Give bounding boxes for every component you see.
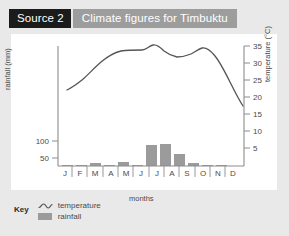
key-item-temperature: temperature [38, 200, 101, 211]
svg-text:O: O [200, 169, 206, 178]
y-axis-label-temperature: temperature (°C) [263, 26, 272, 82]
svg-text:10: 10 [253, 127, 262, 136]
svg-text:M: M [92, 169, 99, 178]
key-item-rainfall: rainfall [38, 211, 101, 222]
svg-text:5: 5 [253, 144, 258, 153]
svg-text:J: J [155, 169, 159, 178]
svg-text:J: J [63, 169, 67, 178]
svg-text:A: A [108, 169, 114, 178]
key-label: Key [14, 200, 29, 215]
card-header: Source 2 Climate figures for Timbuktu [9, 9, 237, 28]
svg-text:35: 35 [253, 42, 262, 51]
right-axis: 35 30 25 20 15 10 5 [244, 42, 262, 166]
svg-text:50: 50 [40, 154, 49, 163]
y-axis-label-rainfall: rainfall (mm) [3, 48, 12, 90]
svg-text:D: D [230, 169, 236, 178]
svg-text:25: 25 [253, 76, 262, 85]
bottom-axis: J F M A M J J A S O N D [58, 166, 244, 178]
key-item-label: temperature [58, 200, 101, 211]
rainfall-bars [62, 144, 227, 166]
climate-figures-card: Source 2 Climate figures for Timbuktu [0, 0, 289, 236]
x-axis-label-months: months [129, 194, 154, 203]
svg-text:M: M [123, 169, 130, 178]
svg-text:100: 100 [36, 137, 50, 146]
card-title: Climate figures for Timbuktu [73, 9, 237, 28]
svg-text:20: 20 [253, 93, 262, 102]
wave-line-icon [38, 201, 53, 210]
svg-text:J: J [139, 169, 143, 178]
svg-text:F: F [78, 169, 83, 178]
chart-panel: 100 50 [11, 34, 277, 190]
left-axis: 100 50 [36, 46, 58, 166]
svg-text:A: A [169, 169, 175, 178]
chart-key: Key temperature rainfall [14, 200, 101, 222]
svg-text:30: 30 [253, 59, 262, 68]
svg-text:15: 15 [253, 110, 262, 119]
climate-graph: 100 50 [11, 34, 277, 190]
svg-text:N: N [215, 169, 221, 178]
source-tag: Source 2 [9, 9, 71, 28]
temperature-line [67, 45, 243, 106]
svg-text:S: S [184, 169, 189, 178]
key-item-label: rainfall [58, 211, 82, 222]
filled-box-icon [38, 212, 53, 221]
